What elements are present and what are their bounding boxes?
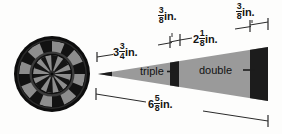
dimension-label-total: 658in.: [148, 94, 172, 113]
wedge-tip: [98, 72, 112, 76]
dartboard-graphic: [14, 36, 90, 112]
dimline-bottom-b: [203, 111, 268, 121]
dimline-triple: [170, 40, 180, 42]
unit-label-total: in.: [160, 98, 172, 110]
dimension-label-left-segment: 334in.: [113, 42, 137, 61]
dimline-bottom-a: [96, 94, 146, 102]
dimline-mid-a: [180, 38, 192, 40]
dartboard-diagram-figure: 38in. 38in. 218in. 334in. 658in. triple …: [0, 0, 282, 134]
unit-label-middle: in.: [205, 33, 217, 45]
double-region-label: double: [199, 64, 232, 76]
dimension-label-double-band: 38in.: [236, 2, 254, 21]
dimension-label-middle-segment: 218in.: [193, 29, 217, 48]
dimension-label-triple-band: 38in.: [158, 6, 176, 25]
triple-region-label: triple: [140, 65, 164, 77]
dimline-mid-b: [235, 27, 251, 30]
unit-label-double-band: in.: [242, 6, 254, 18]
dimline-left-a: [97, 55, 113, 58]
unit-label-left: in.: [125, 46, 137, 58]
dimline-double: [250, 22, 268, 25]
dartboard-bullseye-inner: [50, 72, 53, 75]
unit-label-triple-band: in.: [164, 10, 176, 22]
